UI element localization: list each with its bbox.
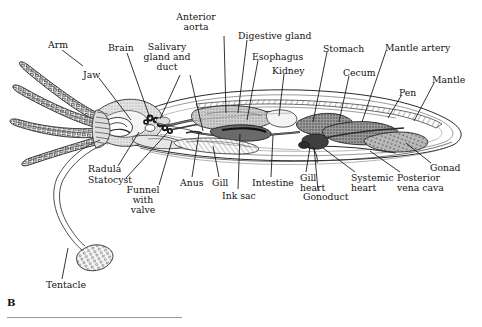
label-mantle-artery: Mantle artery xyxy=(385,43,450,53)
label-jaw: Jaw xyxy=(83,70,100,80)
label-mantle: Mantle xyxy=(432,75,465,85)
label-brain: Brain xyxy=(108,43,134,53)
label-digestive-gland: Digestive gland xyxy=(238,31,311,41)
label-stomach: Stomach xyxy=(323,44,364,54)
label-gill-heart: Gill heart xyxy=(300,173,325,193)
caption-rule xyxy=(7,317,182,318)
label-anus: Anus xyxy=(180,178,203,188)
leader-tentacle xyxy=(62,248,68,279)
statocyst-structure xyxy=(145,125,155,132)
label-systemic-heart: Systemic heart xyxy=(351,173,394,193)
label-pen: Pen xyxy=(399,88,416,98)
label-salivary-gland-and-duct: Salivary gland and duct xyxy=(144,42,191,73)
squid-anatomy-figure: ArmBrainJawSalivary gland and ductAnteri… xyxy=(0,0,482,327)
salivary-gland xyxy=(156,117,170,125)
gill-heart-organ xyxy=(299,142,310,149)
tentacle-club xyxy=(77,245,113,271)
label-esophagus: Esophagus xyxy=(252,52,303,62)
label-intestine: Intestine xyxy=(252,178,294,188)
label-statocyst: Statocyst xyxy=(88,175,132,185)
tentacle-stalk xyxy=(54,140,100,250)
label-ink-sac: Ink sac xyxy=(222,191,256,201)
figure-letter: B xyxy=(7,297,15,308)
label-anterior-aorta: Anterior aorta xyxy=(176,12,215,32)
label-arm: Arm xyxy=(48,40,68,50)
label-gill: Gill xyxy=(212,178,228,188)
leader-arm xyxy=(62,50,83,66)
label-funnel-with-valve: Funnel with valve xyxy=(127,185,160,216)
label-radula: Radula xyxy=(88,164,121,174)
label-kidney: Kidney xyxy=(272,66,305,76)
label-gonoduct: Gonoduct xyxy=(303,192,349,202)
label-tentacle: Tentacle xyxy=(46,280,86,290)
label-cecum: Cecum xyxy=(343,68,376,78)
label-posterior-vena-cava: Posterior vena cava xyxy=(397,173,444,193)
